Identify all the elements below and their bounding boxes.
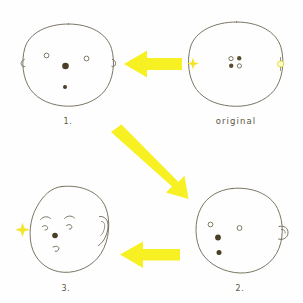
nose-dot-step1 xyxy=(62,63,69,70)
nose-dot-step3 xyxy=(52,233,58,239)
nose-dot-step2 xyxy=(215,235,221,241)
arrow-step1-to-step2 xyxy=(111,125,189,200)
panel-step2[interactable]: 2. xyxy=(196,188,288,293)
diagram-canvas: original 1. 2. xyxy=(0,0,303,303)
panel-step1[interactable]: 1. xyxy=(21,24,115,126)
head-outline-original xyxy=(189,22,283,106)
sparkle-icon-step3-left xyxy=(15,223,30,238)
eye-right-step3 xyxy=(67,225,72,230)
panel-label-original: original xyxy=(216,116,257,126)
eye-right-step1 xyxy=(84,56,89,61)
panel-label-step2: 2. xyxy=(236,284,245,293)
mouth-step3 xyxy=(53,246,59,251)
cluster-mark-top-left xyxy=(229,57,233,61)
mouth-dot-step2 xyxy=(217,250,222,255)
arrow-step2-to-step3 xyxy=(120,242,180,269)
cluster-mark-top-right xyxy=(237,56,241,60)
eye-right-step2 xyxy=(237,226,242,231)
panel-label-step3: 3. xyxy=(62,284,71,293)
eye-left-step3 xyxy=(43,226,48,231)
eye-left-step1 xyxy=(44,53,49,58)
eyebrow-right-step3 xyxy=(65,216,75,218)
panel-step3[interactable]: 3. xyxy=(15,186,109,293)
cluster-mark-bottom-right xyxy=(237,64,241,68)
panel-label-step1: 1. xyxy=(64,117,73,126)
diagram-svg: original 1. 2. xyxy=(0,0,303,303)
eye-left-step2 xyxy=(208,222,213,227)
arrow-original-to-step1 xyxy=(124,51,182,78)
panel-original[interactable]: original xyxy=(187,22,284,126)
ear-inner-step3 xyxy=(101,221,105,235)
eyebrow-left-step3 xyxy=(41,217,51,220)
cluster-mark-bottom-left xyxy=(229,64,233,68)
mouth-dot-step1 xyxy=(63,85,67,89)
ear-step2 xyxy=(279,226,289,239)
